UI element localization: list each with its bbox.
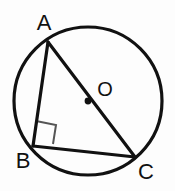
vertex-label-c: C xyxy=(138,159,154,184)
vertex-label-a: A xyxy=(37,10,52,35)
center-point-dot xyxy=(85,98,92,105)
segment-bc xyxy=(33,146,135,157)
geometry-figure: A B C O xyxy=(0,0,175,191)
segment-ab xyxy=(33,42,48,146)
figure-canvas: A B C O xyxy=(0,0,175,191)
segment-ac-diameter xyxy=(48,42,135,157)
vertex-label-b: B xyxy=(16,148,31,173)
center-label-o: O xyxy=(97,78,113,100)
right-angle-marker-icon xyxy=(36,121,56,144)
